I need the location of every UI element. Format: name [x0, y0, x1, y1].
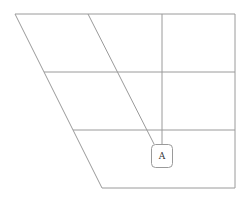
node-label: A	[158, 151, 166, 161]
diagram-canvas: A	[0, 0, 248, 203]
outer-trapezoid-outline	[15, 14, 235, 188]
slanted-connector-line	[88, 14, 154, 144]
node-a[interactable]: A	[152, 145, 173, 168]
